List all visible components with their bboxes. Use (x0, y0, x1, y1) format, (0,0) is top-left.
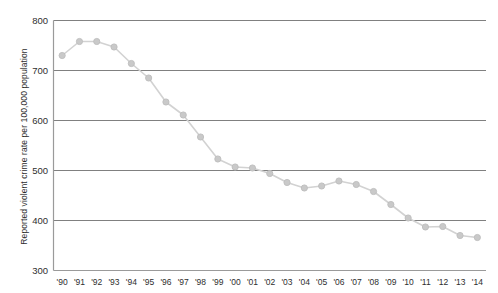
data-point-07 (353, 181, 359, 187)
data-point-06 (336, 178, 342, 184)
data-point-91 (76, 38, 82, 44)
data-point-96 (163, 99, 169, 105)
data-point-92 (94, 38, 100, 44)
data-point-13 (457, 232, 463, 238)
data-point-10 (405, 215, 411, 221)
data-point-95 (146, 75, 152, 81)
data-point-99 (215, 156, 221, 162)
data-point-05 (319, 183, 325, 189)
data-point-98 (197, 134, 203, 140)
axis-lines (54, 21, 487, 271)
data-point-00 (232, 164, 238, 170)
data-point-93 (111, 44, 117, 50)
data-point-08 (370, 188, 376, 194)
violent-crime-rate-line-chart: Reported violent crime rate per 100,000 … (0, 0, 498, 293)
data-point-97 (180, 112, 186, 118)
data-point-14 (474, 234, 480, 240)
data-point-12 (440, 223, 446, 229)
data-point-09 (388, 201, 394, 207)
data-point-04 (301, 185, 307, 191)
plot-area (0, 0, 498, 293)
data-point-02 (267, 170, 273, 176)
data-point-90 (59, 52, 65, 58)
data-point-01 (249, 165, 255, 171)
data-point-03 (284, 179, 290, 185)
series-markers-violent-crime-rate (59, 38, 480, 240)
data-point-11 (422, 224, 428, 230)
data-point-94 (128, 60, 134, 66)
